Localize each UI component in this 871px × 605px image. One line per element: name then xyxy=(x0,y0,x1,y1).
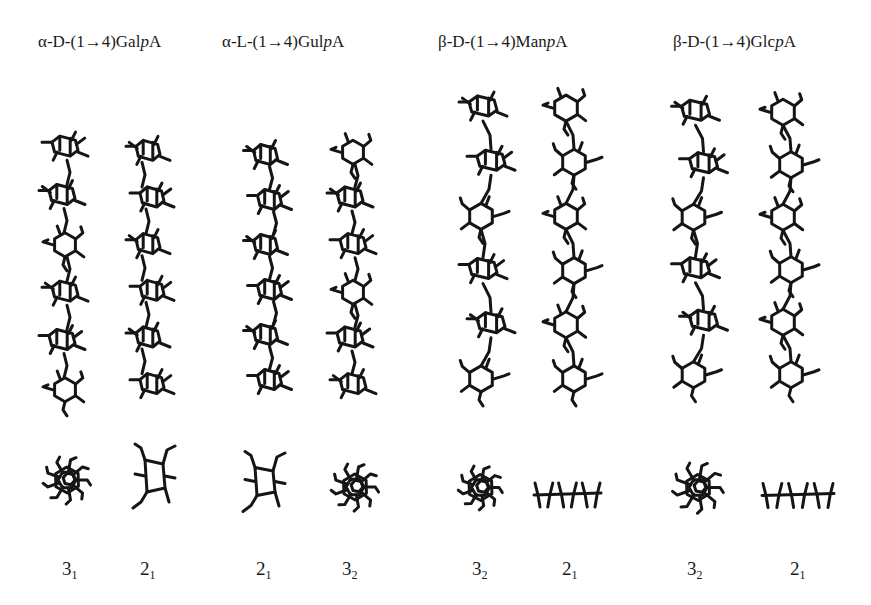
helix-end-view-galpa-3-1 xyxy=(32,440,102,520)
helix-end-view-manpa-3-2 xyxy=(448,455,513,520)
sub: 2 xyxy=(697,568,703,582)
panel-title-galpa: α-D-(1→4)GalpA xyxy=(38,32,161,52)
fold: 2 xyxy=(256,558,266,579)
title-text: α-D-(1→4)Gal xyxy=(38,32,140,51)
title-italic: p xyxy=(547,32,556,51)
helix-symmetry-label: 32 xyxy=(342,558,358,583)
helix-side-view-galpa-3-1 xyxy=(30,120,100,420)
helix-side-view-gulpa-3-2 xyxy=(318,125,388,415)
helix-end-view-gulpa-3-2 xyxy=(320,452,390,522)
panel-title-manpa: β-D-(1→4)ManpA xyxy=(438,32,568,52)
helix-side-view-glcpa-3-2 xyxy=(660,80,735,415)
panel-title-glcpa: β-D-(1→4)GlcpA xyxy=(673,32,796,52)
helix-end-view-glcpa-2-1 xyxy=(758,478,838,513)
sub: 2 xyxy=(352,568,358,582)
title-suffix: A xyxy=(332,32,344,51)
fold: 3 xyxy=(342,558,352,579)
helix-symmetry-label: 31 xyxy=(62,558,78,583)
fold: 3 xyxy=(472,558,482,579)
sub: 1 xyxy=(150,568,156,582)
fold: 2 xyxy=(140,558,150,579)
helix-side-view-galpa-2-1 xyxy=(120,125,180,415)
helix-symmetry-label: 21 xyxy=(790,558,806,583)
sub: 1 xyxy=(266,568,272,582)
helix-symmetry-label: 21 xyxy=(256,558,272,583)
sub: 1 xyxy=(72,568,78,582)
helix-symmetry-label: 32 xyxy=(472,558,488,583)
title-italic: p xyxy=(775,32,784,51)
title-text: α-L-(1→4)Gul xyxy=(222,32,323,51)
helix-side-view-glcpa-2-1 xyxy=(752,80,822,415)
fold: 2 xyxy=(790,558,800,579)
helix-symmetry-label: 32 xyxy=(687,558,703,583)
title-italic: p xyxy=(323,32,332,51)
sub: 1 xyxy=(800,568,806,582)
helix-end-view-manpa-2-1 xyxy=(530,475,605,515)
title-text: β-D-(1→4)Glc xyxy=(673,32,775,51)
title-suffix: A xyxy=(555,32,567,51)
fold: 2 xyxy=(562,558,572,579)
title-suffix: A xyxy=(149,32,161,51)
helix-symmetry-label: 21 xyxy=(140,558,156,583)
fold: 3 xyxy=(62,558,72,579)
helix-end-view-galpa-2-1 xyxy=(125,440,185,520)
helix-side-view-manpa-3-2 xyxy=(450,75,520,420)
panel-title-gulpa: α-L-(1→4)GulpA xyxy=(222,32,344,52)
sub: 1 xyxy=(572,568,578,582)
helix-side-view-gulpa-2-1 xyxy=(235,130,300,410)
title-suffix: A xyxy=(784,32,796,51)
helix-side-view-manpa-2-1 xyxy=(535,75,605,420)
helix-symmetry-label: 21 xyxy=(562,558,578,583)
title-italic: p xyxy=(140,32,149,51)
title-text: β-D-(1→4)Man xyxy=(438,32,547,51)
helix-end-view-glcpa-3-2 xyxy=(658,450,738,525)
helix-end-view-gulpa-2-1 xyxy=(235,450,295,520)
sub: 2 xyxy=(482,568,488,582)
fold: 3 xyxy=(687,558,697,579)
